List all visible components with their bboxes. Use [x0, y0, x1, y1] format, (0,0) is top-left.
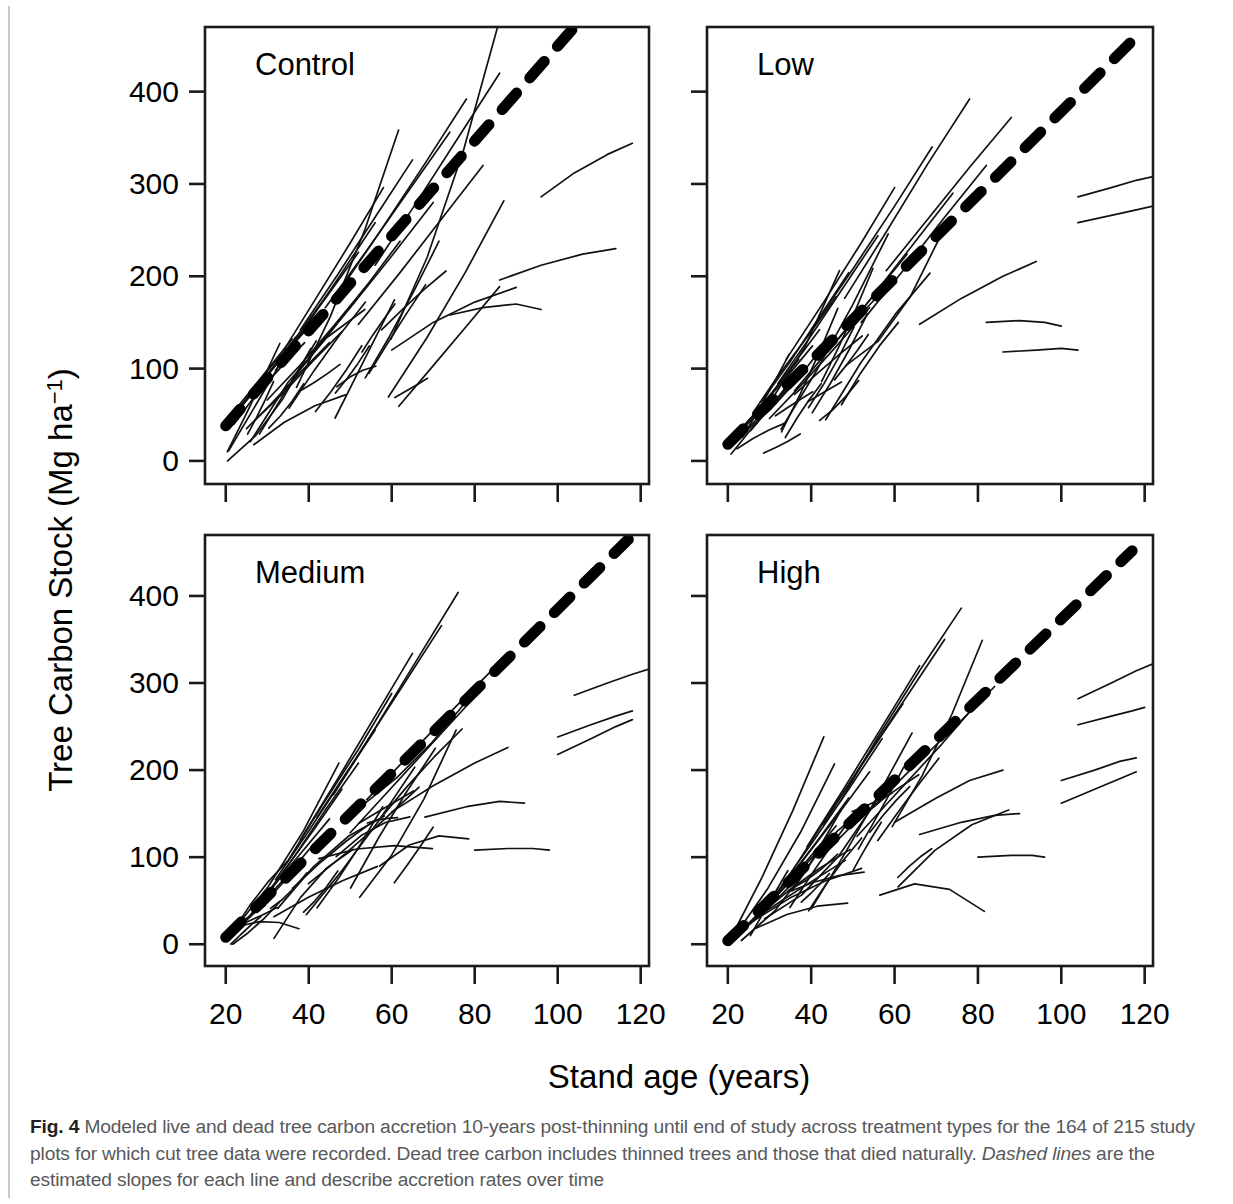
estimated-slope-dashed-line — [226, 539, 629, 937]
x-tick-label: 80 — [961, 997, 994, 1030]
trajectory-line — [898, 810, 1009, 887]
estimated-slope-dashed-line — [226, 27, 575, 426]
y-tick-label: 100 — [129, 352, 179, 385]
y-tick-label: 100 — [129, 840, 179, 873]
y-tick-label: 0 — [162, 444, 179, 477]
panel-title-control: Control — [255, 47, 355, 82]
trajectory-line — [886, 118, 1011, 271]
panel-medium-data — [226, 539, 649, 944]
trajectory-line — [388, 201, 503, 397]
y-tick-label: 300 — [129, 666, 179, 699]
panel-medium: Medium010020030040020406080100120 — [129, 535, 666, 1030]
trajectory-line — [475, 849, 550, 851]
trajectory-line — [1078, 206, 1153, 223]
trajectory-line — [394, 827, 433, 883]
y-tick-label: 0 — [162, 927, 179, 960]
trajectory-line — [395, 378, 428, 397]
panel-high: High20406080100120 — [691, 535, 1170, 1030]
trajectory-line — [391, 20, 500, 340]
svg-text:Tree Carbon Stock (Mg ha−1): Tree Carbon Stock (Mg ha−1) — [42, 368, 79, 792]
trajectory-line — [920, 262, 1037, 325]
trajectory-line — [425, 801, 525, 817]
panel-frame — [205, 535, 649, 966]
y-tick-label: 200 — [129, 259, 179, 292]
trajectory-line — [342, 99, 467, 287]
figure-caption-text: Fig. 4 Modeled live and dead tree carbon… — [30, 1114, 1207, 1194]
trajectory-line — [978, 855, 1045, 857]
trajectory-line — [541, 143, 632, 197]
x-tick-label: 100 — [533, 997, 583, 1030]
trajectory-line — [574, 669, 649, 695]
y-tick-label: 300 — [129, 167, 179, 200]
trajectory-line — [450, 304, 541, 315]
panel-title-medium: Medium — [255, 555, 365, 590]
panel-title-low: Low — [757, 47, 814, 82]
trajectory-line — [820, 381, 859, 421]
trajectory-line — [1078, 664, 1153, 699]
y-axis-title: Tree Carbon Stock (Mg ha−1) — [42, 368, 79, 792]
x-tick-label: 60 — [878, 997, 911, 1030]
trajectory-line — [1078, 177, 1153, 197]
figure-caption-emphasis: Dashed lines — [982, 1143, 1091, 1164]
x-tick-label: 80 — [458, 997, 491, 1030]
panel-title-high: High — [757, 555, 821, 590]
y-axis-title-base: Tree Carbon Stock (Mg ha — [42, 404, 79, 792]
x-tick-label: 100 — [1036, 997, 1086, 1030]
trajectory-line — [350, 697, 475, 833]
figure-caption-label: Fig. 4 — [30, 1116, 79, 1137]
trajectory-line — [986, 321, 1061, 327]
x-tick-label: 40 — [795, 997, 828, 1030]
trajectory-line — [764, 434, 801, 453]
panel-control-data — [226, 20, 633, 461]
x-tick-label: 20 — [711, 997, 744, 1030]
trajectory-line — [500, 249, 616, 280]
chart-svg: Control0100200300400LowMedium01002003004… — [0, 0, 1233, 1100]
panel-control: Control0100200300400 — [129, 20, 649, 502]
trajectory-line — [362, 304, 395, 352]
trajectory-line — [558, 720, 633, 755]
panel-low: Low — [691, 27, 1153, 502]
y-axis-title-superscript: −1 — [42, 379, 67, 404]
trajectory-line — [1003, 348, 1078, 352]
figure-4-root: Control0100200300400LowMedium01002003004… — [0, 0, 1233, 1204]
y-tick-label: 400 — [129, 579, 179, 612]
x-tick-label: 60 — [375, 997, 408, 1030]
y-tick-label: 400 — [129, 75, 179, 108]
y-axis-title-close: ) — [42, 368, 79, 379]
trajectory-line — [1078, 707, 1145, 724]
x-axis-title: Stand age (years) — [548, 1058, 810, 1095]
estimated-slope-dashed-line — [728, 551, 1132, 941]
x-tick-label: 20 — [209, 997, 242, 1030]
estimated-slope-dashed-line — [728, 41, 1132, 445]
trajectory-line — [399, 287, 500, 407]
trajectory-line — [898, 849, 932, 878]
x-tick-label: 120 — [616, 997, 666, 1030]
panel-high-data — [728, 551, 1153, 941]
trajectory-line — [786, 188, 894, 360]
chart-canvas: Control0100200300400LowMedium01002003004… — [0, 0, 1233, 1100]
y-tick-label: 200 — [129, 753, 179, 786]
panels-group: Control0100200300400LowMedium01002003004… — [129, 20, 1170, 1030]
x-tick-label: 120 — [1120, 997, 1170, 1030]
trajectory-line — [880, 884, 985, 912]
trajectory-line — [300, 160, 412, 330]
figure-caption: Fig. 4 Modeled live and dead tree carbon… — [0, 1108, 1233, 1204]
panel-low-data — [728, 41, 1153, 454]
trajectory-line — [359, 166, 484, 325]
trajectory-line — [920, 814, 1020, 835]
x-tick-label: 40 — [292, 997, 325, 1030]
